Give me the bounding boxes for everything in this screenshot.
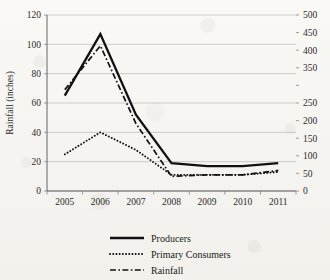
- right-axis-tick-label: 350: [303, 63, 318, 73]
- chart-container: 020406080100120 050100150200250350400450…: [0, 0, 330, 280]
- right-axis-tick-label: 250: [303, 98, 318, 108]
- x-axis-tick-label: 2008: [162, 197, 181, 207]
- x-axis-tick-label: 2011: [269, 197, 288, 207]
- x-axis-tick-label: 2007: [126, 197, 145, 207]
- right-axis-tick-label: 100: [303, 151, 318, 161]
- left-axis-labels: 020406080100120: [27, 10, 42, 196]
- legend-label-primary-consumers: Primary Consumers: [151, 249, 231, 260]
- left-axis-tick-label: 40: [32, 128, 42, 138]
- right-axis-tick-label: 150: [303, 134, 318, 144]
- x-axis-tick-label: 2005: [55, 197, 74, 207]
- right-axis-tick-label: 50: [303, 169, 313, 179]
- left-axis-tick-label: 80: [32, 69, 42, 79]
- left-axis-tick-label: 120: [27, 10, 42, 20]
- series-line-producers: [65, 34, 278, 166]
- y-axis-title: Rainfall (inches): [5, 71, 16, 135]
- right-axis-tick-label: 400: [303, 46, 318, 56]
- right-axis-tick-label: 200: [303, 116, 318, 126]
- right-axis-tickmarks: [296, 15, 299, 191]
- x-axis-labels: 2005200620072008200920102011: [55, 197, 287, 207]
- left-axis-tick-label: 100: [27, 40, 42, 50]
- left-axis-tick-label: 0: [36, 186, 41, 196]
- left-axis-tick-label: 20: [32, 157, 42, 167]
- x-axis-tick-label: 2009: [198, 197, 217, 207]
- chart-svg: 020406080100120 050100150200250350400450…: [0, 0, 330, 280]
- left-axis-tick-label: 60: [32, 98, 42, 108]
- right-axis-labels: 050100150200250350400450500: [303, 10, 318, 196]
- right-axis-tick-label: 450: [303, 28, 318, 38]
- legend-label-rainfall: Rainfall: [151, 265, 183, 276]
- x-axis-tick-label: 2010: [233, 197, 252, 207]
- legend-label-producers: Producers: [151, 233, 191, 244]
- chart-legend: ProducersPrimary ConsumersRainfall: [110, 233, 231, 276]
- x-axis-tickmarks: [47, 191, 296, 195]
- series-line-primary-consumers: [65, 132, 278, 175]
- right-axis-tick-label: 500: [303, 10, 318, 20]
- right-axis-tick-label: 0: [303, 186, 308, 196]
- x-axis-tick-label: 2006: [91, 197, 110, 207]
- series-group: [65, 34, 278, 176]
- series-line-rainfall: [65, 46, 278, 177]
